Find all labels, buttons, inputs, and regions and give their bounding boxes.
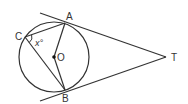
label-b: B: [62, 93, 69, 104]
label-o: O: [57, 52, 65, 63]
label-a: A: [66, 11, 73, 22]
tangent-line-ta: [40, 13, 166, 57]
label-t: T: [171, 52, 177, 63]
center-point-o: [52, 55, 56, 59]
chord-cb: [25, 37, 65, 90]
tangent-line-tb: [40, 57, 166, 101]
circle-tangent-diagram: A B C O T x°: [0, 0, 188, 104]
label-c: C: [15, 31, 22, 42]
label-angle-x: x°: [34, 38, 44, 48]
